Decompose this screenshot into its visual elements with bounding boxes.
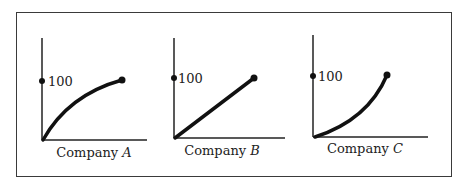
tick-label: 100: [178, 71, 203, 86]
panel-label: Company C: [327, 141, 403, 156]
tick-label: 100: [48, 74, 73, 89]
tick-label: 100: [318, 69, 343, 84]
panel-company-c: 100 Company C: [310, 35, 428, 156]
tick-dot: [171, 75, 177, 81]
curve-end-dot: [384, 72, 391, 79]
figure: 100 Company A 100 Company B 100 Company …: [0, 0, 466, 192]
panel-company-a: 100 Company A: [39, 38, 147, 160]
linear-line: [175, 78, 254, 138]
tick-dot: [310, 73, 316, 79]
line-end-dot: [251, 75, 258, 82]
curve-end-dot: [119, 77, 126, 84]
panel-label: Company A: [56, 145, 131, 160]
tick-dot: [39, 78, 45, 84]
concave-curve: [43, 80, 122, 140]
convex-curve: [315, 75, 387, 137]
panel-company-b: 100 Company B: [171, 38, 285, 158]
panel-label: Company B: [184, 143, 260, 158]
